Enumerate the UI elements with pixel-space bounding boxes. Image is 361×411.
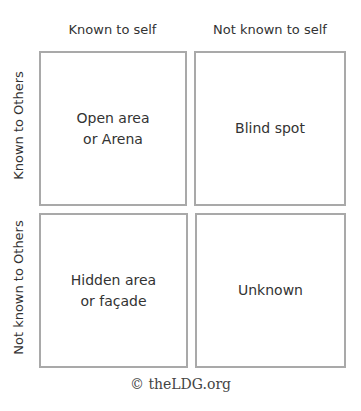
- cell-blind-spot-label: Blind spot: [235, 118, 305, 139]
- cell-hidden-area: Hidden area or façade: [39, 213, 188, 368]
- copyright-footer: © theLDG.org: [0, 376, 361, 392]
- cell-unknown-label: Unknown: [238, 280, 303, 301]
- cell-unknown: Unknown: [195, 213, 346, 368]
- row-header-known-to-others: Known to Others: [11, 56, 26, 196]
- cell-open-area: Open area or Arena: [39, 51, 187, 206]
- cell-hidden-area-line1: Hidden area: [71, 270, 156, 291]
- cell-open-area-line2: or Arena: [76, 129, 149, 150]
- row-header-not-known-to-others: Not known to Others: [11, 218, 26, 358]
- column-header-not-known-to-self: Not known to self: [194, 22, 346, 37]
- cell-open-area-line1: Open area: [76, 108, 149, 129]
- column-header-known-to-self: Known to self: [39, 22, 186, 37]
- cell-blind-spot: Blind spot: [194, 51, 346, 206]
- cell-hidden-area-line2: or façade: [71, 291, 156, 312]
